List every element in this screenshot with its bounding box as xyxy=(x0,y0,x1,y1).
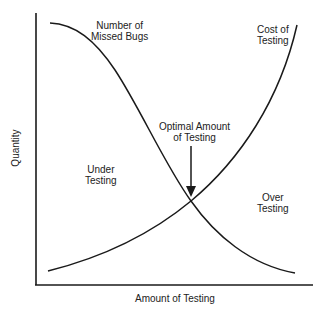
missed-bugs-label-line1: Number of xyxy=(91,20,148,31)
cost-of-testing-curve xyxy=(48,25,297,271)
chart-canvas xyxy=(0,0,327,315)
cost-of-testing-label: Cost of Testing xyxy=(257,24,289,46)
y-axis-label: Quantity xyxy=(10,129,21,166)
x-axis-label: Amount of Testing xyxy=(135,293,215,304)
over-label-line1: Over xyxy=(257,192,289,203)
cost-label-line1: Cost of xyxy=(257,24,289,35)
missed-bugs-curve xyxy=(50,23,295,273)
optimal-label-line2: of Testing xyxy=(159,132,230,143)
over-testing-label: Over Testing xyxy=(257,192,289,214)
missed-bugs-label: Number of Missed Bugs xyxy=(91,20,148,42)
cost-label-line2: Testing xyxy=(257,35,289,46)
under-label-line2: Testing xyxy=(85,175,117,186)
under-testing-label: Under Testing xyxy=(85,164,117,186)
optimal-amount-label: Optimal Amount of Testing xyxy=(159,121,230,143)
under-label-line1: Under xyxy=(85,164,117,175)
over-label-line2: Testing xyxy=(257,203,289,214)
optimal-label-line1: Optimal Amount xyxy=(159,121,230,132)
missed-bugs-label-line2: Missed Bugs xyxy=(91,31,148,42)
